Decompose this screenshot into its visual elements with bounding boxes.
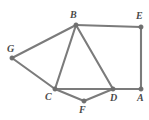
vertex-label-a: A	[137, 93, 144, 103]
vertex-label-g: G	[7, 44, 14, 54]
graph-vertex-d	[111, 87, 115, 91]
graph-vertex-e	[139, 25, 143, 29]
graph-diagram: ABCDEFG	[0, 0, 149, 120]
graph-edge-b-d	[76, 25, 113, 89]
vertex-label-f: F	[79, 105, 86, 115]
graph-vertex-f	[82, 99, 86, 103]
graph-edge-f-d	[84, 89, 113, 101]
vertex-label-b: B	[70, 10, 77, 20]
vertex-label-c: C	[45, 92, 52, 102]
vertex-label-e: E	[136, 11, 143, 21]
edge-layer	[12, 25, 141, 101]
graph-edge-g-c	[12, 58, 55, 89]
vertex-label-d: D	[110, 93, 117, 103]
vertex-layer	[10, 23, 143, 103]
graph-vertex-a	[139, 87, 143, 91]
graph-edge-c-f	[55, 89, 84, 101]
graph-edge-b-e	[76, 25, 141, 27]
graph-vertex-b	[74, 23, 78, 27]
graph-vertex-g	[10, 56, 14, 60]
graph-vertex-c	[53, 87, 57, 91]
